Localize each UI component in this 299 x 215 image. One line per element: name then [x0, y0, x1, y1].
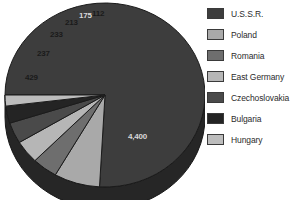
legend-swatch-icon	[207, 71, 224, 82]
legend-item[interactable]: Romania	[207, 48, 299, 63]
pie-chart-figure: 4,400429237233213175112 U.S.S.R.PolandRo…	[0, 0, 299, 215]
legend-swatch-icon	[207, 8, 224, 19]
legend-swatch-icon	[207, 29, 224, 40]
pie-chart-svg	[0, 0, 205, 200]
legend-item-label: Hungary	[231, 135, 262, 145]
pie-slice-value-label: 237	[37, 50, 50, 58]
legend-swatch-icon	[207, 113, 224, 124]
legend-item[interactable]: Czechoslovakia	[207, 90, 299, 105]
pie-slice-value-label: 112	[92, 10, 104, 18]
legend-item[interactable]: Hungary	[207, 132, 299, 147]
pie-slice-value-label: 175	[79, 12, 92, 20]
legend-item-label: East Germany	[231, 72, 284, 82]
pie-slice-value-label: 4,400	[128, 133, 147, 141]
legend-item-label: Bulgaria	[231, 114, 261, 124]
legend-swatch-icon	[207, 92, 224, 103]
legend-swatch-icon	[207, 50, 224, 61]
pie-slice-value-label: 213	[65, 19, 78, 27]
pie-chart-plot-area: 4,400429237233213175112	[0, 0, 205, 200]
legend-item[interactable]: Bulgaria	[207, 111, 299, 126]
legend-item[interactable]: East Germany	[207, 69, 299, 84]
legend-swatch-icon	[207, 134, 224, 145]
pie-slice-value-label: 233	[50, 31, 63, 39]
legend-item-label: Romania	[231, 51, 264, 61]
pie-slice-value-label: 429	[25, 74, 38, 82]
legend-item-label: Poland	[231, 30, 257, 40]
legend-item-label: Czechoslovakia	[231, 93, 289, 103]
legend-item[interactable]: U.S.S.R.	[207, 6, 299, 21]
chart-legend: U.S.S.R.PolandRomaniaEast GermanyCzechos…	[207, 6, 299, 153]
legend-item-label: U.S.S.R.	[231, 9, 263, 19]
legend-item[interactable]: Poland	[207, 27, 299, 42]
